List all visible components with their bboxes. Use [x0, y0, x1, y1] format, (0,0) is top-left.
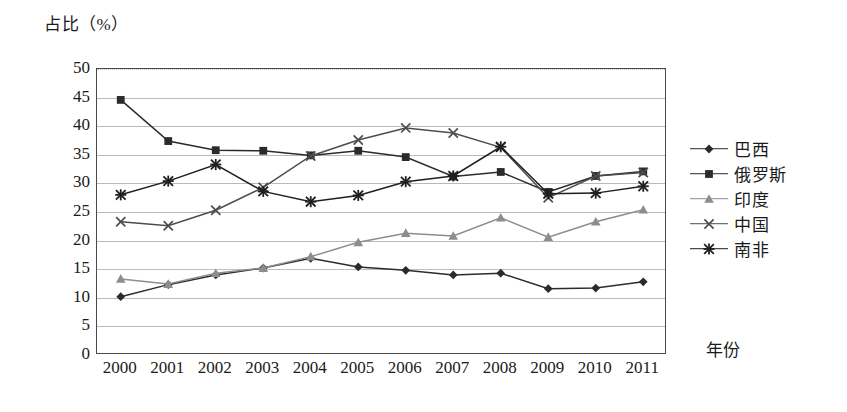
chart-legend: 巴西俄罗斯印度中国南非: [688, 136, 838, 261]
data-point-square-marker: [212, 146, 220, 154]
data-point-asterisk-marker: [495, 141, 506, 152]
legend-label: 俄罗斯: [734, 161, 787, 186]
legend-item-俄罗斯[interactable]: 俄罗斯: [688, 161, 838, 186]
y-axis-tick-label: 0: [56, 344, 90, 364]
legend-item-中国[interactable]: 中国: [688, 211, 838, 236]
series-南非: [115, 141, 649, 207]
legend-label: 中国: [734, 211, 769, 236]
data-point-diamond-marker: [116, 292, 125, 301]
legend-item-印度[interactable]: 印度: [688, 186, 838, 211]
data-point-diamond-marker: [401, 266, 410, 275]
y-axis-tick-label: 35: [56, 144, 90, 164]
y-axis-tick-label: 25: [56, 201, 90, 221]
x-axis-tick-label: 2009: [530, 358, 564, 378]
legend-label: 南非: [734, 236, 769, 261]
series-line: [121, 100, 644, 192]
y-axis-tick-labels: 50454035302520151050: [50, 68, 90, 354]
data-point-square-marker: [402, 153, 410, 161]
y-axis-tick-label: 40: [56, 115, 90, 135]
data-point-asterisk-marker: [448, 170, 459, 181]
y-axis-tick-label: 15: [56, 258, 90, 278]
y-axis-tick-label: 20: [56, 230, 90, 250]
data-point-triangle-marker: [704, 194, 714, 203]
legend-item-巴西[interactable]: 巴西: [688, 136, 838, 161]
data-point-square-marker: [259, 147, 267, 155]
series-中国: [116, 123, 648, 230]
series-line: [121, 128, 644, 226]
data-point-triangle-marker: [116, 274, 126, 283]
data-point-asterisk-marker: [638, 181, 649, 192]
series-俄罗斯: [117, 96, 647, 196]
data-point-diamond-marker: [705, 144, 714, 153]
x-axis-tick-label: 2003: [245, 358, 279, 378]
data-point-square-marker: [164, 137, 172, 145]
x-axis-tick-label: 2011: [626, 358, 659, 378]
legend-item-南非[interactable]: 南非: [688, 236, 838, 261]
data-point-square-marker: [117, 96, 125, 104]
x-axis-tick-label: 2005: [340, 358, 374, 378]
y-axis-tick-label: 10: [56, 287, 90, 307]
data-point-asterisk-marker: [703, 243, 714, 254]
x-axis-tick-label: 2000: [103, 358, 137, 378]
data-point-asterisk-marker: [258, 186, 269, 197]
x-axis-tick-label: 2006: [388, 358, 422, 378]
legend-marker-cross-icon: [688, 214, 730, 234]
x-axis-tick-label: 2004: [293, 358, 327, 378]
data-point-asterisk-marker: [400, 176, 411, 187]
data-point-diamond-marker: [591, 284, 600, 293]
legend-marker-asterisk-icon: [688, 239, 730, 259]
y-axis-title: 占比（%）: [44, 10, 129, 35]
y-axis-tick-label: 5: [56, 315, 90, 335]
x-axis-tick-label: 2001: [150, 358, 184, 378]
y-axis-tick-label: 45: [56, 87, 90, 107]
data-point-diamond-marker: [639, 277, 648, 286]
data-point-cross-marker: [354, 135, 363, 144]
x-axis-tick-label: 2007: [435, 358, 469, 378]
line-chart: 占比（%） 50454035302520151050 2000200120022…: [0, 0, 847, 412]
data-point-asterisk-marker: [115, 189, 126, 200]
data-point-asterisk-marker: [210, 159, 221, 170]
legend-marker-triangle-icon: [688, 189, 730, 209]
data-point-square-marker: [497, 168, 505, 176]
legend-label: 印度: [734, 186, 769, 211]
series-lines-layer: [97, 69, 667, 355]
x-axis-tick-label: 2010: [578, 358, 612, 378]
y-axis-tick-label: 50: [56, 58, 90, 78]
x-axis-tick-labels: 2000200120022003200420052006200720082009…: [96, 358, 666, 388]
data-point-diamond-marker: [544, 284, 553, 293]
data-point-diamond-marker: [496, 269, 505, 278]
data-point-asterisk-marker: [590, 188, 601, 199]
data-point-cross-marker: [704, 219, 713, 228]
data-point-diamond-marker: [449, 271, 458, 280]
legend-marker-square-icon: [688, 164, 730, 184]
x-axis-tick-label: 2008: [483, 358, 517, 378]
data-point-asterisk-marker: [353, 190, 364, 201]
legend-label: 巴西: [734, 136, 769, 161]
data-point-square-marker: [354, 147, 362, 155]
x-axis-title: 年份: [706, 336, 740, 361]
legend-marker-diamond-icon: [688, 139, 730, 159]
plot-area: [96, 68, 666, 354]
data-point-asterisk-marker: [305, 196, 316, 207]
x-axis-tick-label: 2002: [198, 358, 232, 378]
data-point-triangle-marker: [638, 205, 648, 214]
series-line: [121, 147, 644, 202]
series-line: [121, 210, 644, 284]
data-point-square-marker: [705, 170, 713, 178]
data-point-triangle-marker: [496, 213, 506, 222]
data-point-cross-marker: [211, 206, 220, 215]
data-point-asterisk-marker: [163, 176, 174, 187]
data-point-asterisk-marker: [543, 188, 554, 199]
data-point-diamond-marker: [354, 263, 363, 272]
y-axis-tick-label: 30: [56, 172, 90, 192]
